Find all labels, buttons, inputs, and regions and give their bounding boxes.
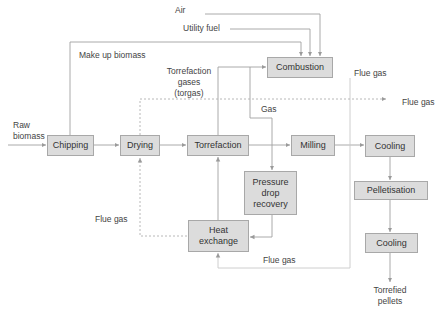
- label-gas: Gas: [261, 104, 277, 115]
- label-torgas-line: (torgas): [162, 88, 216, 99]
- label-torgas-line: gases: [162, 77, 216, 88]
- node-heat-exchange: Heat exchange: [188, 220, 249, 252]
- node-label: Pelletisation: [367, 185, 416, 196]
- node-cooling-1: Cooling: [365, 135, 415, 157]
- label-raw-line: Raw: [13, 120, 45, 131]
- node-label: Milling: [300, 140, 326, 151]
- node-label: Chipping: [53, 140, 89, 151]
- label-flue-gas-right: Flue gas: [402, 97, 435, 108]
- label-flue-gas-top: Flue gas: [354, 68, 387, 79]
- label-air: Air: [175, 5, 185, 16]
- label-raw-line: biomass: [13, 131, 45, 142]
- label-flue-gas-bottom: Flue gas: [263, 255, 296, 266]
- node-label: Combustion: [276, 62, 324, 73]
- label-torrefied-pellets: Torrefied pellets: [363, 285, 417, 307]
- label-torgas: Torrefaction gases (torgas): [162, 66, 216, 99]
- node-label: Heat exchange: [197, 225, 240, 247]
- label-flue-gas-left: Flue gas: [95, 214, 128, 225]
- node-combustion: Combustion: [267, 57, 333, 78]
- label-raw-biomass: Raw biomass: [13, 120, 45, 142]
- node-pressure-drop-recovery: Pressure drop recovery: [244, 171, 297, 215]
- node-label: Pressure drop recovery: [249, 177, 292, 210]
- node-torrefaction: Torrefaction: [187, 135, 249, 156]
- label-utility-fuel: Utility fuel: [183, 23, 220, 34]
- node-label: Torrefaction: [194, 140, 241, 151]
- node-chipping: Chipping: [47, 135, 94, 156]
- node-label: Cooling: [376, 238, 407, 249]
- node-drying: Drying: [120, 135, 160, 156]
- label-make-up-biomass: Make up biomass: [79, 50, 146, 61]
- label-product-line: Torrefied: [363, 285, 417, 296]
- flow-connectors: [0, 0, 444, 314]
- label-torgas-line: Torrefaction: [162, 66, 216, 77]
- node-label: Drying: [127, 140, 153, 151]
- node-label: Cooling: [375, 141, 406, 152]
- node-milling: Milling: [291, 135, 335, 156]
- node-pelletisation: Pelletisation: [354, 181, 428, 200]
- label-product-line: pellets: [363, 296, 417, 307]
- node-cooling-2: Cooling: [365, 233, 418, 253]
